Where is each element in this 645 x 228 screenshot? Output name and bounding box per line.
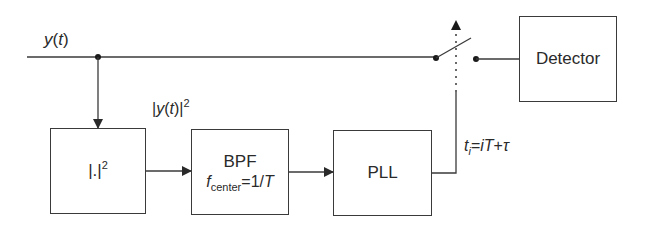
bpf-title: BPF — [223, 152, 256, 172]
timing-label: ti=iT+τ — [464, 137, 509, 155]
paren-close: ) — [63, 30, 69, 49]
symbol-tau: τ — [503, 137, 509, 154]
detector-label: Detector — [536, 49, 600, 69]
bpf-block: BPF fcenter=1/T — [191, 129, 289, 215]
squarer-block: |.|2 — [50, 128, 146, 214]
input-signal-label: y(t) — [44, 30, 69, 50]
exponent: 2 — [183, 97, 189, 109]
plus: + — [494, 137, 503, 154]
equals-one-over: =1/ — [241, 173, 264, 190]
pll-block: PLL — [333, 130, 432, 216]
symbol-T: T — [264, 173, 274, 190]
subscript-center: center — [211, 181, 242, 193]
pll-output-line — [432, 92, 456, 173]
squarer-label: |.|2 — [88, 161, 108, 181]
equals: = — [471, 137, 480, 154]
switch-blade — [436, 38, 471, 58]
squared-signal-label: |y(t)|2 — [152, 100, 190, 118]
pll-label: PLL — [367, 163, 397, 183]
abs-close: )| — [174, 100, 183, 117]
symbol-y: y — [156, 100, 164, 117]
symbol-y: y — [44, 30, 53, 49]
abs-operator: |.| — [88, 161, 102, 180]
exponent: 2 — [102, 159, 108, 171]
symbol-T: T — [484, 137, 494, 154]
control-arrowhead-icon — [451, 20, 461, 30]
detector-block: Detector — [519, 16, 617, 102]
bpf-center-frequency: fcenter=1/T — [206, 172, 274, 192]
